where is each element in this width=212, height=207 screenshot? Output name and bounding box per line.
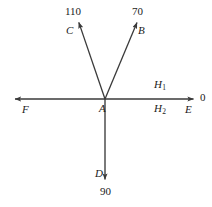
h2-subscript: 2 <box>162 107 166 116</box>
ray-d-point-label: D <box>95 168 103 179</box>
ray-e-value-label: 0 <box>200 92 206 103</box>
vertex-label-a: A <box>99 103 106 114</box>
h1-letter: H <box>154 78 162 90</box>
ray-b-point-label: B <box>138 25 145 36</box>
h2-letter: H <box>154 102 162 114</box>
h2-label: H2 <box>154 103 166 116</box>
ray-c-value-label: 110 <box>65 6 81 17</box>
ray-e-point-label: E <box>185 104 192 115</box>
ray-bearing-diagram: A 110 C 70 B D 90 F E 0 H1 H2 <box>0 0 212 207</box>
ray-c-line <box>79 22 105 99</box>
ray-b-value-label: 70 <box>132 6 143 17</box>
diagram-canvas <box>0 0 212 207</box>
h1-subscript: 1 <box>162 83 166 92</box>
ray-d-value-label: 90 <box>100 186 111 197</box>
ray-c-point-label: C <box>66 25 73 36</box>
ray-b-line <box>105 23 137 99</box>
ray-f-point-label: F <box>22 104 29 115</box>
h1-label: H1 <box>154 79 166 92</box>
